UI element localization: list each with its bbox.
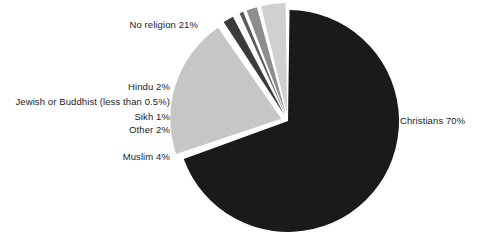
pie-chart-figure: No religion 21% Hindu 2% Jewish or Buddh… <box>0 0 480 241</box>
slice-label-christians: Christians 70% <box>400 115 465 126</box>
slice-label-jewish-or-buddhist: Jewish or Buddhist (less than 0.5%) <box>15 96 170 107</box>
pie-slice-group <box>170 3 399 232</box>
slice-label-muslim: Muslim 4% <box>123 151 170 162</box>
slice-label-hindu: Hindu 2% <box>128 81 170 92</box>
slice-label-other: Other 2% <box>129 124 170 135</box>
slice-label-sikh: Sikh 1% <box>134 111 170 122</box>
slice-label-no-religion: No religion 21% <box>129 19 198 30</box>
